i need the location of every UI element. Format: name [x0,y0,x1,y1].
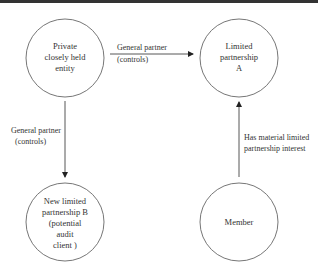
node-label-line: client ) [25,240,105,251]
edge-label-line: Has material limited [244,132,309,143]
node-label-line: New limited [25,196,105,207]
node-label-line: A [199,63,279,74]
node-label-line: (potential [25,218,105,229]
node-lp-b-label: New limited partnership B (potential aud… [25,196,105,251]
node-label-line: partnership [199,52,279,63]
node-label-line: Member [199,217,279,228]
edge-label-line: General partner [117,42,167,53]
node-label-line: partnership B [25,207,105,218]
node-label-line: audit [25,229,105,240]
edge-label-line: (controls) [11,136,61,147]
node-lp-a-label: Limited partnership A [199,41,279,74]
node-label-line: closely held [25,52,105,63]
edge-member-to-lp-a-label: Has material limited partnership interes… [244,132,309,154]
node-member-label: Member [199,217,279,228]
node-label-line: entity [25,63,105,74]
node-private-entity-label: Private closely held entity [25,41,105,74]
node-label-line: Limited [199,41,279,52]
edge-label-line: General partner [11,125,61,136]
edge-private-to-lp-b-label: General partner (controls) [11,125,61,147]
edge-label-line: partnership interest [244,143,309,154]
node-label-line: Private [25,41,105,52]
edge-label-line: (controls) [117,54,167,65]
edge-private-to-lp-a-label: General partner (controls) [117,42,167,65]
